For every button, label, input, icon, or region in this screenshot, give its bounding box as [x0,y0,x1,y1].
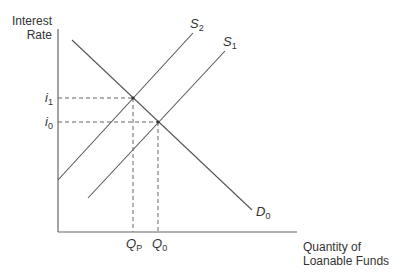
x-axis-label-line2: Loanable Funds [303,254,389,268]
label-d0-sub: 0 [265,211,270,221]
x-axis-label-line1: Quantity of [303,240,389,254]
label-s1-sub: 1 [232,41,237,51]
tick-i0-sub: 0 [48,121,53,131]
label-s2-main: S [190,16,199,31]
tick-i1: i1 [45,91,53,109]
label-d0: D0 [256,205,270,223]
tick-q0-main: Q [152,236,162,251]
tick-i1-sub: 1 [48,97,53,107]
demand-curve-d0 [72,40,252,210]
tick-q0-sub: 0 [162,243,167,253]
label-s1: S1 [223,35,237,53]
equilibrium-point-0 [156,120,159,123]
tick-qp: QP [126,237,142,255]
label-s2: S2 [190,17,204,35]
loanable-funds-diagram [0,0,400,279]
y-axis-label: Interest Rate [0,14,52,42]
tick-q0: Q0 [152,237,167,255]
label-s1-main: S [223,34,232,49]
equilibrium-point-1 [131,96,134,99]
tick-qp-main: Q [126,236,136,251]
label-s2-sub: 2 [199,23,204,33]
y-axis-label-line2: Rate [0,28,52,42]
y-axis-label-line1: Interest [0,14,52,28]
tick-i0: i0 [45,115,53,133]
x-axis-label: Quantity of Loanable Funds [303,240,389,268]
tick-qp-sub: P [136,243,142,253]
label-d0-main: D [256,204,265,219]
